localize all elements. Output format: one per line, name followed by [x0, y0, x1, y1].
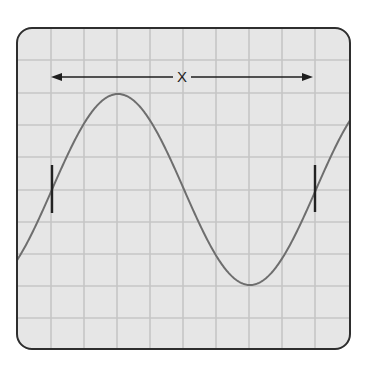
wavelength-label: X [177, 68, 187, 85]
waveform-diagram: X [0, 0, 367, 369]
